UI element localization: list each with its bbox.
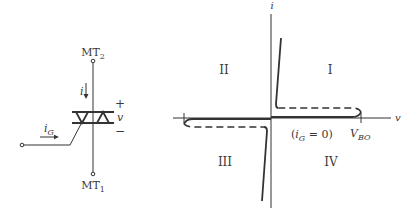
quadrant-4-label: IV	[324, 155, 338, 169]
voltage-minus-sign: −	[115, 124, 125, 138]
gate-current-label: iG	[44, 122, 55, 137]
reverse-on-state-curve	[262, 127, 267, 201]
triac-down-triangle-icon	[76, 112, 88, 123]
quadrant-3-label: III	[218, 155, 232, 169]
iv-characteristic	[173, 14, 391, 208]
mt1-label: MT1	[81, 179, 105, 194]
forward-blocking-curve	[271, 112, 361, 117]
x-axis-label: v	[395, 112, 401, 123]
gate-condition-label: (iG = 0)	[291, 128, 333, 143]
mt1-terminal-node	[91, 172, 95, 176]
mt2-label: MT2	[81, 46, 105, 61]
triac-up-triangle-icon	[97, 112, 109, 123]
gate-terminal-node	[20, 143, 24, 147]
voltage-plus-sign: +	[115, 97, 125, 111]
forward-negative-resistance-curve	[278, 108, 361, 112]
quadrant-2-label: II	[219, 63, 229, 77]
breakover-voltage-label: VBO	[350, 127, 371, 142]
reverse-blocking-curve	[184, 119, 271, 124]
triac-symbol	[20, 59, 114, 176]
forward-on-state-curve	[276, 38, 281, 108]
triac-diagram: MT2 MT1 i iG + v − i v II I III IV (iG =…	[0, 0, 417, 221]
quadrant-1-label: I	[328, 63, 333, 77]
mt2-terminal-node	[91, 59, 95, 63]
y-axis-label: i	[270, 0, 273, 11]
current-label: i	[80, 85, 84, 98]
voltage-label: v	[117, 111, 124, 124]
reverse-negative-resistance-curve	[184, 124, 264, 127]
